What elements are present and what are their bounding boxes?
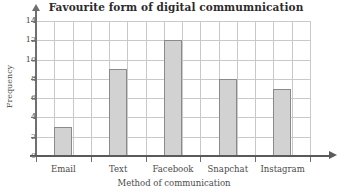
bar-chart-figure: Favourite form of digital commumnication… (0, 0, 344, 193)
y-tick-mark (31, 117, 36, 118)
gridline-vertical (200, 21, 201, 156)
x-axis-line (30, 155, 330, 157)
y-tick-mark (31, 137, 36, 138)
x-tick-mark (36, 157, 37, 162)
y-tick-mark (31, 79, 36, 80)
x-tick-label-instagram: Instagram (248, 164, 318, 174)
gridline-vertical (255, 21, 256, 156)
x-axis-arrow-icon (329, 151, 337, 159)
gridline-vertical (182, 21, 183, 156)
bar-email (54, 127, 72, 156)
bar-snapchat (219, 79, 237, 156)
x-tick-mark (255, 157, 256, 162)
x-tick-mark (91, 157, 92, 162)
gridline-vertical (91, 21, 92, 156)
y-tick-mark (31, 21, 36, 22)
gridline-vertical (292, 21, 293, 156)
x-tick-mark (146, 157, 147, 162)
x-tick-mark (200, 157, 201, 162)
bar-facebook (164, 40, 182, 156)
y-tick-mark (31, 98, 36, 99)
gridline-vertical (73, 21, 74, 156)
x-axis-title: Method of communication (36, 178, 312, 188)
gridline-vertical (237, 21, 238, 156)
gridline-vertical (310, 21, 311, 156)
bar-text (109, 69, 127, 156)
y-tick-mark (31, 60, 36, 61)
plot-area (36, 21, 310, 156)
gridline-vertical (127, 21, 128, 156)
gridline-vertical (146, 21, 147, 156)
chart-title: Favourite form of digital commumnication (36, 1, 316, 13)
x-tick-mark (310, 157, 311, 162)
y-tick-mark (31, 40, 36, 41)
gridline-horizontal (36, 21, 310, 22)
bar-instagram (273, 89, 291, 157)
